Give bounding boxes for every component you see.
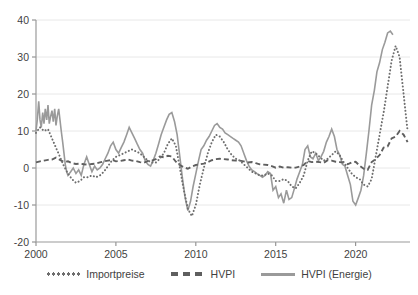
legend-swatch-dashed-icon bbox=[171, 272, 205, 276]
legend-swatch-solid-icon bbox=[261, 273, 295, 276]
series-path-solid bbox=[36, 31, 393, 210]
x-axis-labels: 20002005201020152020 bbox=[24, 248, 367, 260]
y-tick-label: -10 bbox=[14, 199, 29, 211]
legend-item-importpreise[interactable]: Importpreise bbox=[46, 269, 144, 280]
legend-label-hvpi-energie: HVPI (Energie) bbox=[301, 269, 372, 280]
x-axis-ticks bbox=[36, 242, 356, 246]
y-tick-label: 10 bbox=[17, 125, 29, 137]
y-axis-labels: 403020100-10-20 bbox=[14, 14, 29, 248]
y-tick-label: -20 bbox=[14, 236, 29, 248]
chart-legend: Importpreise HVPI HVPI (Energie) bbox=[0, 262, 418, 286]
x-tick-label: 2005 bbox=[104, 248, 128, 260]
y-tick-label: 40 bbox=[17, 14, 29, 26]
legend-item-hvpi[interactable]: HVPI bbox=[171, 269, 236, 280]
chart-container: 403020100-10-20 20002005201020152020 Imp… bbox=[0, 0, 418, 295]
y-tick-label: 0 bbox=[23, 162, 29, 174]
legend-swatch-dotted-icon bbox=[46, 272, 80, 276]
series-hvpi-energie bbox=[36, 31, 393, 210]
legend-label-hvpi: HVPI bbox=[211, 269, 236, 280]
x-tick-label: 2000 bbox=[24, 248, 48, 260]
line-chart: 403020100-10-20 20002005201020152020 bbox=[0, 0, 418, 295]
x-tick-label: 2015 bbox=[264, 248, 288, 260]
legend-label-importpreise: Importpreise bbox=[86, 269, 144, 280]
x-tick-label: 2020 bbox=[344, 248, 368, 260]
x-tick-label: 2010 bbox=[184, 248, 208, 260]
y-tick-label: 30 bbox=[17, 51, 29, 63]
legend-item-hvpi-energie[interactable]: HVPI (Energie) bbox=[261, 269, 372, 280]
grid-lines bbox=[36, 20, 410, 205]
series-hvpi bbox=[36, 131, 408, 170]
series-path-dashed bbox=[36, 131, 408, 170]
y-tick-label: 20 bbox=[17, 88, 29, 100]
